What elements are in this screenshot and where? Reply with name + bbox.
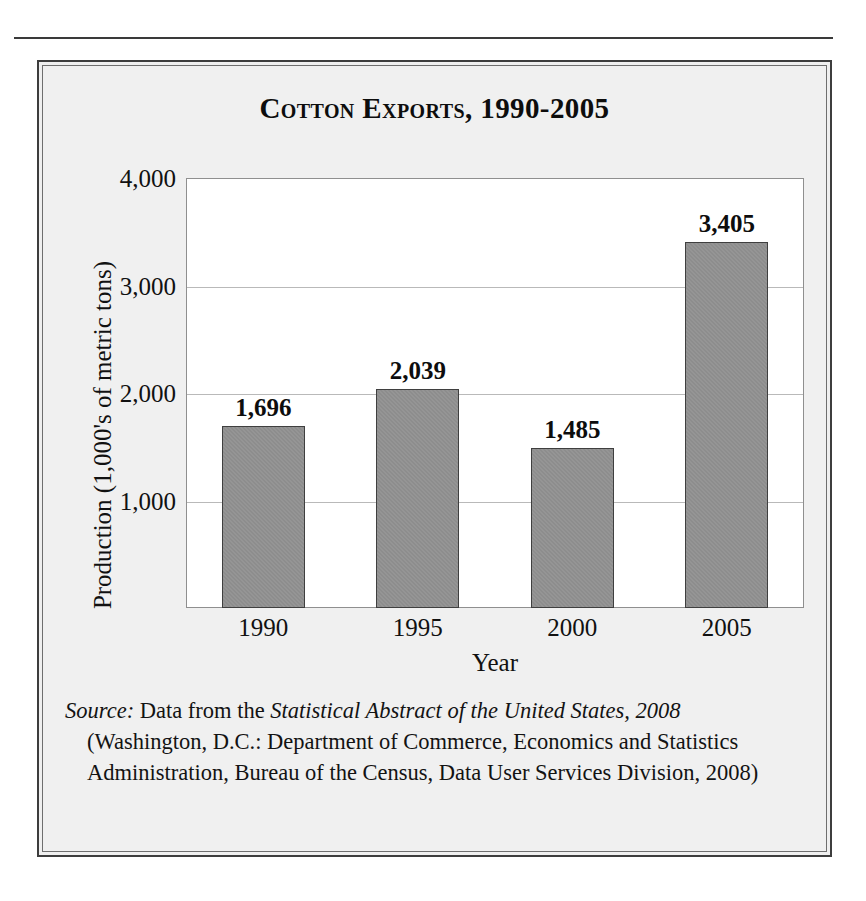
bar-slot: 3,405 bbox=[685, 178, 768, 608]
figure-box: Cotton Exports, 1990-2005 Production (1,… bbox=[37, 60, 832, 857]
x-axis-title: Year bbox=[186, 649, 804, 677]
x-tick-label: 1990 bbox=[186, 614, 341, 642]
y-axis-tick-labels: 1,0002,0003,0004,000 bbox=[63, 178, 176, 608]
source-note: Source: Data from the Statistical Abstra… bbox=[65, 696, 798, 788]
bar-2000[interactable] bbox=[531, 448, 614, 608]
bar-value-label: 1,696 bbox=[204, 395, 323, 420]
y-tick-label: 2,000 bbox=[71, 381, 176, 406]
x-tick-label: 1995 bbox=[341, 614, 496, 642]
bar-2005[interactable] bbox=[685, 242, 768, 608]
source-note-before: Data from the bbox=[134, 698, 270, 723]
source-note-after: (Washington, D.C.: Department of Commerc… bbox=[87, 729, 758, 785]
bar-1990[interactable] bbox=[222, 426, 305, 608]
source-note-label: Source: bbox=[65, 698, 134, 723]
x-tick-label: 2005 bbox=[650, 614, 805, 642]
bar-value-label: 1,485 bbox=[513, 417, 632, 442]
bar-slot: 2,039 bbox=[376, 178, 459, 608]
page-top-rule bbox=[14, 37, 833, 39]
y-tick-label: 3,000 bbox=[71, 273, 176, 298]
bar-value-label: 3,405 bbox=[667, 211, 786, 236]
source-note-work-title: Statistical Abstract of the United State… bbox=[270, 698, 680, 723]
bar-slot: 1,696 bbox=[222, 178, 305, 608]
x-axis-tick-labels: 1990199520002005 bbox=[186, 614, 804, 648]
x-tick-label: 2000 bbox=[495, 614, 650, 642]
y-tick-label: 4,000 bbox=[71, 166, 176, 191]
bar-slot: 1,485 bbox=[531, 178, 614, 608]
figure-box-inner-rule: Cotton Exports, 1990-2005 Production (1,… bbox=[42, 65, 827, 852]
y-tick-label: 1,000 bbox=[71, 488, 176, 513]
bars-layer: 1,6962,0391,4853,405 bbox=[186, 178, 804, 608]
chart-title: Cotton Exports, 1990-2005 bbox=[43, 92, 826, 125]
bar-value-label: 2,039 bbox=[358, 358, 477, 383]
bar-1995[interactable] bbox=[376, 389, 459, 608]
